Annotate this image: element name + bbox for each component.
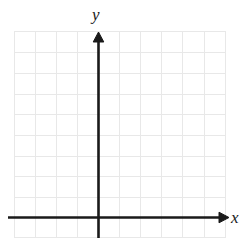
plot-area: y x	[0, 0, 242, 243]
x-axis-label: x	[231, 209, 239, 226]
arrow-right-icon	[219, 212, 229, 223]
arrow-up-icon	[93, 32, 104, 42]
coordinate-grid-figure: y x	[0, 0, 242, 243]
axis-lines	[0, 0, 242, 243]
y-axis-label: y	[92, 6, 100, 23]
